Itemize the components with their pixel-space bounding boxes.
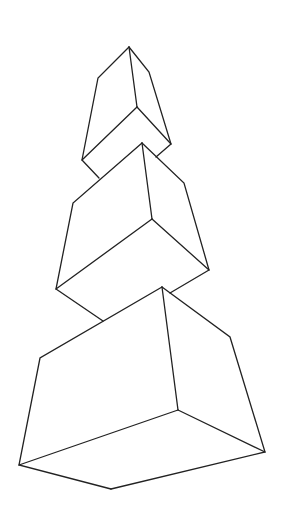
bottom-box-lower-right-edge: [178, 410, 265, 452]
middle-box-lower-left-edge: [56, 219, 152, 289]
top-box-left-outline: [82, 47, 129, 178]
middle-box-lower-right-edge: [152, 219, 209, 270]
bottom-box-front-edge: [162, 287, 178, 410]
middle-box-left-outline: [56, 143, 142, 321]
middle-box: [56, 143, 209, 321]
top-box-right-outline: [129, 47, 171, 157]
bottom-box-lower-left-edge: [19, 410, 178, 465]
bottom-box: [19, 287, 265, 489]
drawing-canvas: Line drawing of three stacked rectangula…: [0, 0, 289, 525]
bottom-box-left-outline: [19, 287, 162, 489]
middle-box-front-edge: [142, 143, 152, 219]
stacked-boxes-drawing: [0, 0, 289, 525]
bottom-box-right-outline: [111, 287, 265, 489]
